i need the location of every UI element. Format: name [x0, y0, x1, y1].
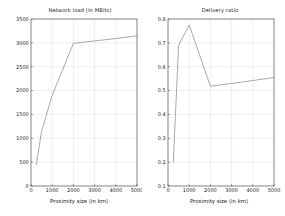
y-axis-tick-label: 0.5 — [158, 87, 166, 93]
x-axis-tick-label: 4000 — [109, 187, 122, 193]
x-axis-label-delivery-ratio: Proximity size (in km) — [143, 198, 285, 204]
y-axis-tick-label: 500 — [19, 159, 29, 165]
plot-area-delivery-ratio: 0.10.20.30.40.50.60.70.80100020003000400… — [143, 0, 285, 216]
data-series-line — [36, 36, 137, 165]
y-axis-tick-label: 0 — [26, 183, 29, 189]
x-axis-tick-label: 2000 — [204, 187, 217, 193]
y-axis-tick-label: 2000 — [16, 87, 29, 93]
y-axis-tick-label: 0.2 — [158, 159, 166, 165]
x-axis-tick-label: 2000 — [67, 187, 80, 193]
y-axis-tick-label: 1500 — [16, 111, 29, 117]
chart-panel-delivery-ratio: Delivery ratio 0.10.20.30.40.50.60.70.80… — [143, 0, 285, 216]
y-axis-tick-label: 0.3 — [158, 135, 166, 141]
y-axis-tick-label: 0.1 — [158, 183, 166, 189]
y-axis-tick-label: 0.8 — [158, 16, 166, 22]
plot-frame — [168, 19, 274, 186]
y-axis-tick-label: 1000 — [16, 135, 29, 141]
x-axis-tick-label: 3000 — [225, 187, 238, 193]
x-axis-tick-label: 0 — [166, 187, 169, 193]
y-axis-tick-label: 3500 — [16, 16, 29, 22]
plot-area-network-load: 0500100015002000250030003500010002000300… — [0, 0, 142, 216]
y-axis-tick-label: 0.6 — [158, 64, 166, 70]
x-axis-tick-label: 1000 — [183, 187, 196, 193]
y-axis-tick-label: 0.4 — [158, 111, 166, 117]
x-axis-label-network-load: Proximity size (in km) — [0, 198, 142, 204]
x-axis-tick-label: 4000 — [246, 187, 259, 193]
plot-frame — [31, 19, 137, 186]
x-axis-tick-label: 3000 — [88, 187, 101, 193]
data-series-line — [173, 25, 274, 162]
y-axis-tick-label: 3000 — [16, 40, 29, 46]
x-axis-tick-label: 1000 — [46, 187, 59, 193]
x-axis-tick-label: 5000 — [131, 187, 142, 193]
x-axis-tick-label: 5000 — [268, 187, 281, 193]
y-axis-tick-label: 0.7 — [158, 40, 166, 46]
chart-panel-network-load: Network load (in MBits) 0500100015002000… — [0, 0, 142, 216]
figure-canvas: Network load (in MBits) 0500100015002000… — [0, 0, 285, 216]
y-axis-tick-label: 2500 — [16, 64, 29, 70]
x-axis-tick-label: 0 — [29, 187, 32, 193]
